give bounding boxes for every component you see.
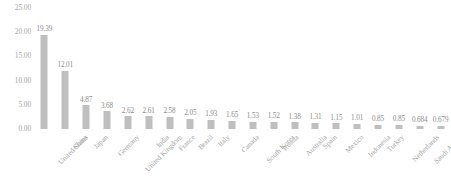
bar[interactable] <box>187 119 194 129</box>
bar-group[interactable]: 19.39 <box>34 8 55 129</box>
bar[interactable] <box>395 125 402 129</box>
bar-value-label: 3.68 <box>101 103 113 110</box>
x-axis-label: Japan <box>93 133 110 150</box>
bar[interactable] <box>416 126 423 129</box>
bar[interactable] <box>312 123 319 129</box>
bar[interactable] <box>249 122 256 129</box>
x-axis-label: Germany <box>116 133 140 157</box>
bar-value-label: 1.31 <box>309 114 321 121</box>
bar-chart: 0.005.0010.0015.0020.0025.00 19.3912.014… <box>0 0 451 192</box>
y-axis: 0.005.0010.0015.0020.0025.00 <box>0 0 34 134</box>
bar-value-label: 0.85 <box>393 116 405 123</box>
bar[interactable] <box>103 111 110 129</box>
bar-group[interactable]: 1.52 <box>263 8 284 129</box>
bar[interactable] <box>229 121 236 129</box>
bar-value-label: 1.65 <box>226 112 238 119</box>
bar-value-label: 4.87 <box>80 97 92 104</box>
plot-area: 19.3912.014.873.682.622.612.582.051.931.… <box>34 8 451 129</box>
bar[interactable] <box>208 120 215 129</box>
bar[interactable] <box>145 116 152 129</box>
y-axis-tick-label: 0.00 <box>0 125 31 132</box>
bar[interactable] <box>333 123 340 129</box>
x-axis-category-labels: United StatesChinaJapanGermanyUnited Kin… <box>34 130 451 192</box>
y-axis-tick-label: 20.00 <box>0 28 31 35</box>
bar[interactable] <box>375 125 382 129</box>
bar[interactable] <box>166 117 173 129</box>
bar-value-label: 1.15 <box>330 115 342 122</box>
bar-group[interactable]: 0.85 <box>368 8 389 129</box>
x-axis-label: Russia <box>281 133 300 152</box>
bar-value-label: 19.39 <box>37 26 53 33</box>
bar-value-label: 1.93 <box>205 111 217 118</box>
bar-group[interactable]: 1.38 <box>284 8 305 129</box>
bar-group[interactable]: 2.58 <box>159 8 180 129</box>
y-axis-tick-label: 25.00 <box>0 4 31 11</box>
bar-value-label: 1.53 <box>247 113 259 120</box>
x-axis-label: Canada <box>240 133 260 153</box>
bar-value-label: 12.01 <box>57 62 73 69</box>
bar-group[interactable]: 0.679 <box>430 8 451 129</box>
bar-group[interactable]: 1.15 <box>326 8 347 129</box>
bar-value-label: 2.05 <box>184 110 196 117</box>
bar-group[interactable]: 2.62 <box>117 8 138 129</box>
bar-group[interactable]: 1.65 <box>222 8 243 129</box>
bar-value-label: 0.679 <box>433 117 449 124</box>
bar-value-label: 2.58 <box>163 108 175 115</box>
bar[interactable] <box>437 126 444 129</box>
bar-value-label: 0.684 <box>412 117 428 124</box>
x-axis-label: Mexico <box>344 133 365 154</box>
bar-value-label: 2.61 <box>143 108 155 115</box>
bar-group[interactable]: 0.684 <box>409 8 430 129</box>
bar-value-label: 1.52 <box>268 113 280 120</box>
bar-group[interactable]: 2.61 <box>138 8 159 129</box>
bar[interactable] <box>124 116 131 129</box>
y-axis-tick-label: 10.00 <box>0 77 31 84</box>
bar-group[interactable]: 1.93 <box>201 8 222 129</box>
bar-group[interactable]: 2.05 <box>180 8 201 129</box>
bar-value-label: 1.38 <box>289 114 301 121</box>
bar-group[interactable]: 1.31 <box>305 8 326 129</box>
bar-group[interactable]: 0.85 <box>388 8 409 129</box>
bar-value-label: 2.62 <box>122 108 134 115</box>
bar-group[interactable]: 12.01 <box>55 8 76 129</box>
bar[interactable] <box>41 35 48 129</box>
bar-value-label: 0.85 <box>372 116 384 123</box>
bar[interactable] <box>291 122 298 129</box>
bar[interactable] <box>62 71 69 129</box>
bar[interactable] <box>354 124 361 129</box>
bar-value-label: 1.01 <box>351 115 363 122</box>
bar[interactable] <box>270 122 277 129</box>
x-axis-label: Italy <box>217 133 231 147</box>
bar[interactable] <box>83 105 90 129</box>
y-axis-tick-label: 15.00 <box>0 52 31 59</box>
bar-group[interactable]: 4.87 <box>76 8 97 129</box>
x-axis-label: Brazil <box>197 133 215 151</box>
bar-group[interactable]: 3.68 <box>97 8 118 129</box>
bar-group[interactable]: 1.01 <box>347 8 368 129</box>
y-axis-tick-label: 5.00 <box>0 101 31 108</box>
bar-group[interactable]: 1.53 <box>243 8 264 129</box>
